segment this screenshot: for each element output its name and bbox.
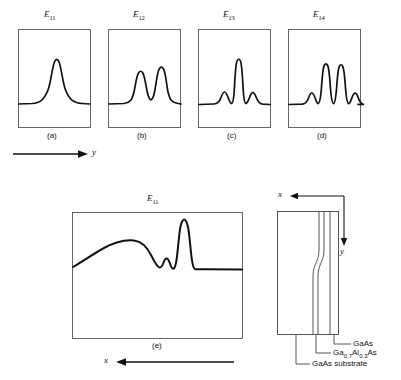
material-label-gaas: GaAs — [353, 339, 373, 348]
panel-caption-b: (b) — [137, 131, 147, 140]
leader-line-gaas — [334, 334, 351, 344]
material-label-gaas-substrate: GaAs substrate — [312, 359, 367, 368]
x-axis-label: x — [104, 355, 108, 365]
structure-axis-y-arrowhead — [341, 238, 347, 246]
figure-canvas — [0, 0, 401, 380]
panel-frame-a — [19, 30, 91, 128]
y-axis-label: y — [92, 147, 96, 157]
panel-caption-d: (d) — [317, 131, 327, 140]
panel-frame-e — [73, 213, 243, 339]
structure-axis-y-label: y — [340, 246, 344, 256]
panel-caption-e: (e) — [152, 341, 162, 350]
y-axis-arrow-head — [78, 150, 88, 158]
panel-title-e: E11 — [147, 193, 158, 205]
structure-axis-x-label: x — [278, 189, 282, 199]
structure-axis-x-arrowhead — [290, 193, 298, 199]
figure-root: E11 E12 E13 E14 — [0, 0, 401, 380]
leader-line-gaalas — [316, 334, 331, 353]
panel-frame-d — [289, 30, 361, 128]
x-axis-arrow-head — [116, 358, 126, 366]
panel-caption-a: (a) — [47, 131, 57, 140]
panel-caption-c: (c) — [227, 131, 236, 140]
material-label-gaalas: Ga0.7Al0.3As — [333, 348, 377, 359]
leader-line-gaas-substrate — [296, 334, 310, 364]
structure-outer-rect — [278, 212, 339, 335]
